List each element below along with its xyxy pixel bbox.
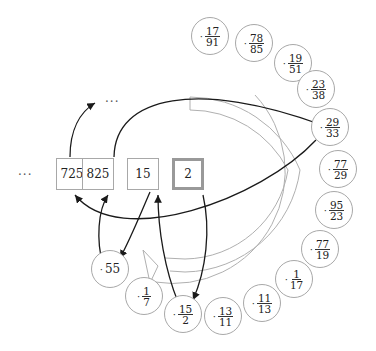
multiply-dot-icon: · bbox=[285, 274, 288, 285]
multiply-dot-icon: · bbox=[283, 58, 286, 69]
fraction-node: ·17 bbox=[125, 277, 163, 315]
fraction-numerator: 77 bbox=[333, 159, 348, 170]
multiply-dot-icon: · bbox=[328, 164, 331, 175]
multiply-dot-icon: · bbox=[213, 311, 216, 322]
fraction-denominator: 13 bbox=[258, 304, 271, 314]
arrow-15-to-55 bbox=[120, 192, 150, 258]
fraction-node: ·55 bbox=[91, 250, 129, 288]
fraction-numerator: 77 bbox=[315, 239, 330, 250]
fraction-numerator: 23 bbox=[311, 79, 326, 90]
fraction-node: ·1311 bbox=[204, 297, 242, 335]
multiply-dot-icon: · bbox=[324, 205, 327, 216]
multiply-dot-icon: · bbox=[100, 264, 103, 275]
fraction-denominator: 19 bbox=[316, 250, 329, 260]
arrow-15-2-to-15 bbox=[158, 195, 178, 302]
fraction-denominator: 33 bbox=[326, 128, 339, 138]
fraction-numerator: 19 bbox=[288, 53, 303, 64]
tape-left-ellipsis: ··· bbox=[18, 168, 32, 182]
fraction-node: ·7719 bbox=[301, 230, 339, 268]
fraction-denominator: 23 bbox=[330, 211, 343, 221]
fraction-numerator: 1 bbox=[142, 286, 151, 297]
multiply-dot-icon: · bbox=[244, 38, 247, 49]
fraction-node: ·117 bbox=[275, 260, 313, 298]
fraction-node: ·2933 bbox=[311, 108, 349, 146]
fraction-denominator: 11 bbox=[219, 317, 232, 327]
fraction-numerator: 78 bbox=[249, 33, 264, 44]
fraction-denominator: 7 bbox=[143, 297, 150, 307]
fraction-denominator: 17 bbox=[290, 280, 303, 290]
fraction-node: ·152 bbox=[164, 295, 202, 333]
fraction-numerator: 13 bbox=[218, 306, 233, 317]
fraction-numerator: 11 bbox=[257, 293, 272, 304]
arrow-725-to-ellipsis bbox=[70, 103, 95, 157]
multiply-dot-icon: · bbox=[320, 122, 323, 133]
fraction-node: ·1791 bbox=[191, 17, 229, 55]
fraction-node: ·1113 bbox=[243, 284, 281, 322]
tape-cell-value: 825 bbox=[87, 167, 110, 181]
tape-top-ellipsis: ··· bbox=[105, 95, 119, 109]
fraction-denominator: 91 bbox=[206, 37, 219, 47]
fraction-numerator: 17 bbox=[205, 26, 220, 37]
loop-arrow-icon bbox=[143, 97, 300, 283]
fraction-node: ·2338 bbox=[297, 70, 335, 108]
fraction-numerator: 1 bbox=[292, 269, 301, 280]
fraction-node: ·7885 bbox=[235, 24, 273, 62]
tape-cell-current: 2 bbox=[172, 158, 204, 190]
fraction-node: ·7729 bbox=[319, 150, 357, 188]
multiply-dot-icon: · bbox=[173, 309, 176, 320]
fraction-denominator: 2 bbox=[182, 315, 189, 325]
fraction-denominator: 85 bbox=[250, 44, 263, 54]
fraction-denominator: 38 bbox=[312, 90, 325, 100]
fraction-numerator: 29 bbox=[325, 117, 340, 128]
multiply-dot-icon: · bbox=[200, 31, 203, 42]
fraction-numerator: 15 bbox=[178, 304, 193, 315]
tape-cell: 825 bbox=[82, 158, 114, 190]
arrow-825-to-29-33 bbox=[114, 99, 322, 157]
multiply-dot-icon: · bbox=[137, 291, 140, 302]
fraction-numerator: 95 bbox=[329, 200, 344, 211]
fraction-denominator: 51 bbox=[289, 64, 302, 74]
tape-cell: 15 bbox=[127, 158, 159, 190]
multiply-dot-icon: · bbox=[252, 298, 255, 309]
arrow-2-to-15-2 bbox=[193, 195, 207, 300]
tape-cell-value: 15 bbox=[135, 167, 150, 181]
multiply-dot-icon: · bbox=[306, 84, 309, 95]
tape-cell-value: 2 bbox=[184, 167, 192, 181]
fraction-denominator: 29 bbox=[334, 170, 347, 180]
tape-cell-value: 725 bbox=[61, 167, 84, 181]
fraction-node: ·9523 bbox=[315, 191, 353, 229]
multiply-dot-icon: · bbox=[310, 244, 313, 255]
multiplier-value: 55 bbox=[105, 262, 120, 276]
fractran-diagram: 725825152·1791·7885·1951·2338·2933·7729·… bbox=[0, 0, 376, 351]
